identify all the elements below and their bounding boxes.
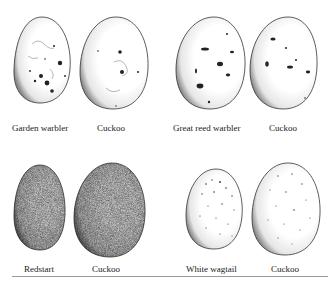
label-cuckoo-1: Cuckoo [97, 123, 125, 133]
label-cuckoo-2: Cuckoo [269, 123, 297, 133]
egg-redstart [10, 162, 72, 254]
egg-cuckoo-4 [248, 160, 324, 258]
egg-cuckoo-1 [76, 14, 152, 112]
label-cuckoo-4: Cuckoo [271, 264, 299, 274]
egg-white-wagtail [182, 166, 246, 252]
egg-cuckoo-3 [70, 160, 150, 260]
egg-cuckoo-2 [246, 14, 320, 112]
label-cuckoo-3: Cuckoo [92, 264, 120, 274]
egg-garden-warbler [10, 14, 74, 106]
bottom-rule [12, 276, 328, 277]
label-redstart: Redstart [24, 264, 54, 274]
label-white-wagtail: White wagtail [186, 264, 237, 274]
egg-great-reed-warbler [172, 14, 248, 112]
label-great-reed-warbler: Great reed warbler [173, 123, 240, 133]
label-garden-warbler: Garden warbler [12, 123, 68, 133]
